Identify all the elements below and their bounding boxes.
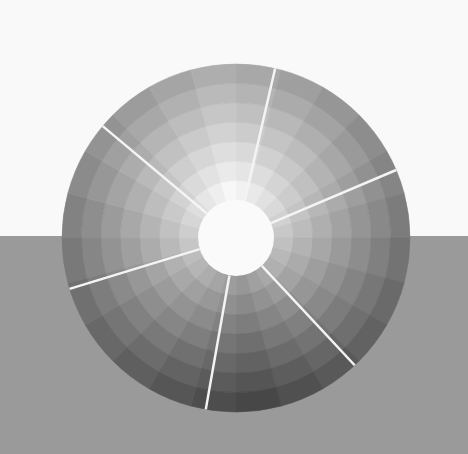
wheel-cell (329, 238, 352, 268)
wheel-cell (236, 331, 266, 354)
wheel-center-hole (198, 200, 274, 276)
wheel-cell (206, 122, 236, 145)
wheel-cell (206, 331, 236, 354)
wheel-cell (120, 238, 143, 268)
wheel-cell (120, 208, 143, 238)
tonal-value-wheel (0, 0, 468, 454)
wheel-cell (329, 208, 352, 238)
